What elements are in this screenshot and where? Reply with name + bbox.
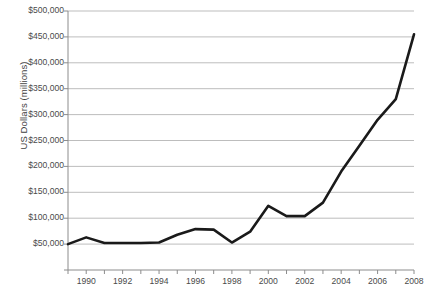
x-axis-tick-labels: 1990199219941996199820002002200420062008 (0, 276, 425, 296)
x-tick-label: 2006 (358, 276, 398, 286)
x-axis-ticks (68, 270, 414, 274)
x-tick-label: 2002 (285, 276, 325, 286)
x-tick-label: 1990 (66, 276, 106, 286)
plot-area (0, 0, 425, 300)
gridlines (68, 11, 414, 244)
x-tick-label: 2008 (394, 276, 425, 286)
data-series-line (68, 34, 414, 244)
x-tick-label: 1994 (139, 276, 179, 286)
y-axis-ticks (64, 11, 68, 270)
x-tick-label: 2000 (248, 276, 288, 286)
line-chart: US Dollars (millions) $50,000$100,000$15… (0, 0, 425, 300)
x-tick-label: 1998 (212, 276, 252, 286)
x-tick-label: 1992 (103, 276, 143, 286)
x-tick-label: 1996 (175, 276, 215, 286)
x-tick-label: 2004 (321, 276, 361, 286)
